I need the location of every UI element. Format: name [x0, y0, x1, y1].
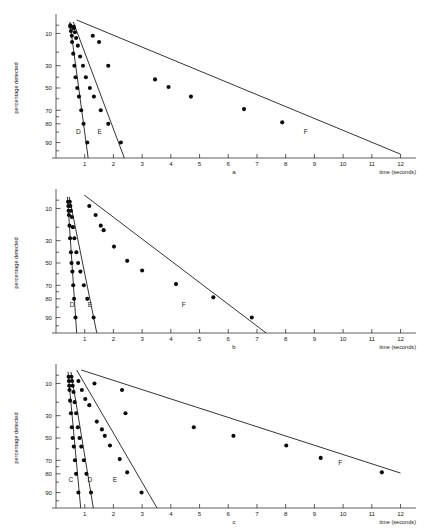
data-point-a-D-4: [71, 52, 75, 56]
data-point-a-F-0: [68, 23, 72, 27]
x-tick-label-c-4: 4: [169, 510, 173, 517]
y-tick-label-a-80: 80: [45, 120, 52, 127]
x-tick-label-c-1: 1: [83, 510, 87, 517]
data-point-a-F-3: [97, 40, 101, 44]
data-point-a-E-10: [106, 122, 110, 126]
data-point-c-F-2: [123, 411, 127, 415]
data-point-a-D-9: [79, 108, 83, 112]
data-point-b-E-8: [78, 270, 82, 274]
data-point-c-E-10: [140, 491, 144, 495]
curve-label-b-F: F: [182, 301, 186, 308]
x-tick-label-c-9: 9: [313, 510, 317, 517]
data-point-b-D-9: [71, 283, 75, 287]
x-tick-label-a-11: 11: [369, 160, 376, 167]
data-point-b-F-5: [125, 259, 129, 263]
data-point-c-E-6: [103, 434, 107, 438]
data-point-c-F-4: [231, 434, 235, 438]
data-point-b-F-6: [140, 268, 144, 272]
data-point-a-E-11: [119, 141, 123, 145]
x-tick-label-c-11: 11: [369, 510, 376, 517]
x-tick-label-b-11: 11: [369, 335, 376, 342]
data-point-b-E-0: [68, 200, 72, 204]
data-point-a-D-11: [85, 141, 89, 145]
y-tick-label-c-10: 10: [45, 380, 52, 387]
data-point-b-E-4: [71, 225, 75, 229]
data-point-c-E-7: [108, 443, 112, 447]
data-point-a-E-6: [84, 75, 88, 79]
figure-caption: [10, 519, 414, 531]
y-tick-label-a-90: 90: [45, 139, 52, 146]
x-tick-label-a-7: 7: [255, 160, 259, 167]
data-point-c-D-0: [69, 375, 73, 379]
data-point-b-F-2: [99, 224, 103, 228]
curve-label-c-F: F: [338, 459, 342, 466]
x-tick-label-b-12: 12: [397, 335, 404, 342]
x-axis-title-b: time (seconds): [379, 344, 416, 350]
data-point-b-E-1: [68, 204, 72, 208]
data-point-b-E-3: [70, 215, 74, 219]
data-point-a-E-9: [99, 108, 103, 112]
x-tick-label-b-5: 5: [198, 335, 202, 342]
y-tick-label-b-30: 30: [45, 237, 52, 244]
data-point-a-F-1: [72, 26, 76, 30]
x-tick-label-b-8: 8: [284, 335, 288, 342]
data-point-c-C-8: [72, 445, 76, 449]
x-tick-label-a-6: 6: [227, 160, 231, 167]
x-tick-label-a-4: 4: [169, 160, 173, 167]
data-point-c-C-5: [69, 411, 73, 415]
y-tick-label-b-70: 70: [45, 282, 52, 289]
data-point-a-D-6: [73, 75, 77, 79]
curve-label-c-C: C: [69, 476, 74, 483]
data-point-a-F-4: [106, 64, 110, 68]
data-point-a-D-3: [70, 40, 74, 44]
x-tick-label-c-8: 8: [284, 510, 288, 517]
data-point-b-F-7: [174, 282, 178, 286]
x-tick-label-b-2: 2: [112, 335, 116, 342]
x-tick-label-c-10: 10: [340, 510, 347, 517]
curve-label-b-D: D: [70, 301, 75, 308]
data-point-c-E-1: [80, 388, 84, 392]
data-point-c-D-6: [76, 425, 80, 429]
data-point-a-F-8: [242, 107, 246, 111]
x-tick-label-c-3: 3: [140, 510, 144, 517]
data-point-c-C-4: [68, 399, 72, 403]
y-tick-label-b-90: 90: [45, 314, 52, 321]
data-point-b-D-6: [69, 250, 73, 254]
data-point-a-F-5: [153, 77, 157, 81]
data-point-c-D-5: [74, 411, 78, 415]
x-tick-label-c-5: 5: [198, 510, 202, 517]
x-tick-label-a-12: 12: [397, 160, 404, 167]
data-point-a-D-10: [82, 122, 86, 126]
x-tick-label-b-9: 9: [313, 335, 317, 342]
data-point-b-E-5: [72, 236, 76, 240]
fit-line-c-F: [81, 370, 400, 473]
fit-line-a-F: [77, 20, 401, 154]
data-point-b-D-5: [68, 236, 72, 240]
data-point-c-F-5: [284, 443, 288, 447]
data-point-b-D-11: [73, 316, 77, 320]
data-point-a-E-1: [73, 30, 77, 34]
data-point-a-F-9: [280, 120, 284, 124]
data-point-a-E-3: [76, 44, 80, 48]
data-point-b-D-8: [70, 270, 74, 274]
data-point-a-E-4: [78, 54, 82, 58]
panel-a: 123456789101112103050708090percentage de…: [13, 14, 416, 175]
data-point-c-C-7: [71, 436, 75, 440]
panel-label-b: b: [232, 343, 236, 350]
data-point-a-F-6: [166, 85, 170, 89]
data-point-c-F-0: [92, 381, 96, 385]
x-tick-label-c-6: 6: [227, 510, 231, 517]
x-tick-label-b-6: 6: [227, 335, 231, 342]
data-point-b-E-7: [76, 261, 80, 265]
data-point-b-F-0: [87, 204, 91, 208]
data-point-c-C-3: [67, 388, 71, 392]
x-tick-label-b-4: 4: [169, 335, 173, 342]
data-point-a-E-7: [88, 86, 92, 90]
y-tick-label-b-10: 10: [45, 205, 52, 212]
x-tick-label-c-7: 7: [255, 510, 259, 517]
y-tick-label-c-50: 50: [45, 434, 52, 441]
data-point-c-F-7: [380, 470, 384, 474]
x-tick-label-a-9: 9: [313, 160, 317, 167]
y-tick-label-b-80: 80: [45, 295, 52, 302]
data-point-c-E-5: [100, 427, 104, 431]
